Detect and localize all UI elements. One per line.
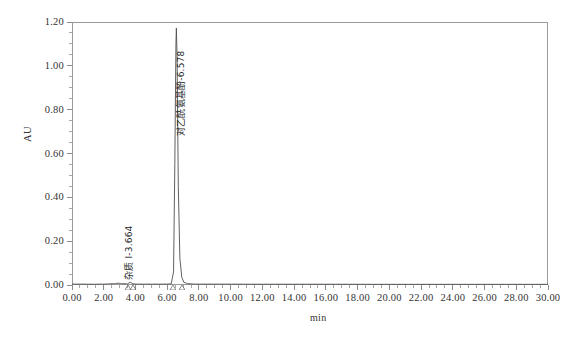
trace-path [72,28,548,284]
tick-mark [119,285,120,288]
y-axis: 0.000.200.400.600.801.001.20 [0,22,72,286]
tick-mark [413,285,414,288]
tick-mark [278,285,279,288]
tick-mark [103,285,104,290]
x-axis-tick-label: 4.00 [126,292,145,303]
y-axis-tick-label: 0.20 [45,233,64,249]
tick-mark [286,285,287,288]
tick-mark [444,285,445,288]
tick-mark [389,285,390,290]
tick-mark [238,285,239,288]
detector-trace [72,22,548,285]
x-axis-tick-label: 0.00 [62,292,81,303]
tick-mark [310,285,311,288]
tick-mark [381,285,382,288]
tick-mark [95,285,96,288]
tick-mark [508,285,509,288]
x-axis-tick-label: 28.00 [504,292,529,303]
y-axis-tick-label: 0.60 [45,146,64,162]
tick-mark [429,285,430,288]
tick-mark [341,285,342,288]
tick-mark [540,285,541,288]
tick-mark [270,285,271,288]
tick-mark [111,285,112,288]
tick-mark [548,285,549,290]
y-axis-tick-label: 0.40 [45,189,64,205]
x-axis-tick-label: 14.00 [282,292,307,303]
integration-marker-paracetamol-end [179,285,185,290]
tick-mark [206,285,207,288]
y-axis-tick-label: 0.00 [45,277,64,293]
integration-marker-paracetamol-start [170,285,176,290]
tick-mark [79,285,80,288]
tick-mark [262,285,263,290]
x-axis-tick-label: 24.00 [440,292,465,303]
x-axis-title: min [310,312,326,323]
tick-mark [87,285,88,288]
tick-mark [151,285,152,288]
tick-mark [492,285,493,288]
tick-mark [302,285,303,288]
tick-mark [198,285,199,290]
y-axis-tick-label: 1.00 [45,58,64,74]
tick-mark [468,285,469,288]
x-axis-tick-label: 12.00 [250,292,275,303]
tick-mark [373,285,374,288]
tick-mark [222,285,223,288]
tick-mark [532,285,533,288]
tick-mark [405,285,406,288]
y-axis-title: AU [22,126,33,142]
tick-mark [436,285,437,288]
tick-mark [500,285,501,288]
tick-mark [191,285,192,288]
tick-mark [333,285,334,288]
tick-mark [167,285,168,290]
x-axis-tick-label: 18.00 [345,292,370,303]
x-axis-tick-label: 16.00 [314,292,339,303]
detector-trace-layer [72,22,548,285]
peak-label-paracetamol: 对乙酰氨基酚-6.578 [176,51,186,136]
x-axis-tick-label: 30.00 [536,292,561,303]
tick-mark [476,285,477,288]
tick-mark [325,285,326,290]
tick-mark [294,285,295,290]
x-axis-tick-label: 26.00 [472,292,497,303]
chromatogram-plot: 0.000.200.400.600.801.001.20 AU 0.002.00… [0,0,578,340]
x-axis-tick-label: 2.00 [94,292,113,303]
tick-mark [246,285,247,288]
tick-mark [357,285,358,290]
y-axis-tick-label: 1.20 [45,14,64,30]
x-axis-tick-label: 10.00 [218,292,243,303]
tick-mark [72,285,73,290]
tick-mark [516,285,517,290]
tick-mark [214,285,215,288]
tick-mark [397,285,398,288]
tick-mark [254,285,255,288]
x-axis-tick-label: 20.00 [377,292,402,303]
tick-mark [460,285,461,288]
integration-marker-impurity-1-end [130,285,136,290]
peak-label-impurity-1: 杂质 I-3.664 [124,225,134,280]
tick-mark [452,285,453,290]
tick-mark [524,285,525,288]
x-axis-tick-label: 8.00 [189,292,208,303]
x-axis-tick-label: 6.00 [158,292,177,303]
y-axis-tick-label: 0.80 [45,102,64,118]
tick-mark [365,285,366,288]
x-axis-tick-label: 22.00 [409,292,434,303]
tick-mark [230,285,231,290]
tick-mark [159,285,160,288]
tick-mark [317,285,318,288]
tick-mark [484,285,485,290]
tick-mark [421,285,422,290]
tick-mark [349,285,350,288]
tick-mark [143,285,144,288]
